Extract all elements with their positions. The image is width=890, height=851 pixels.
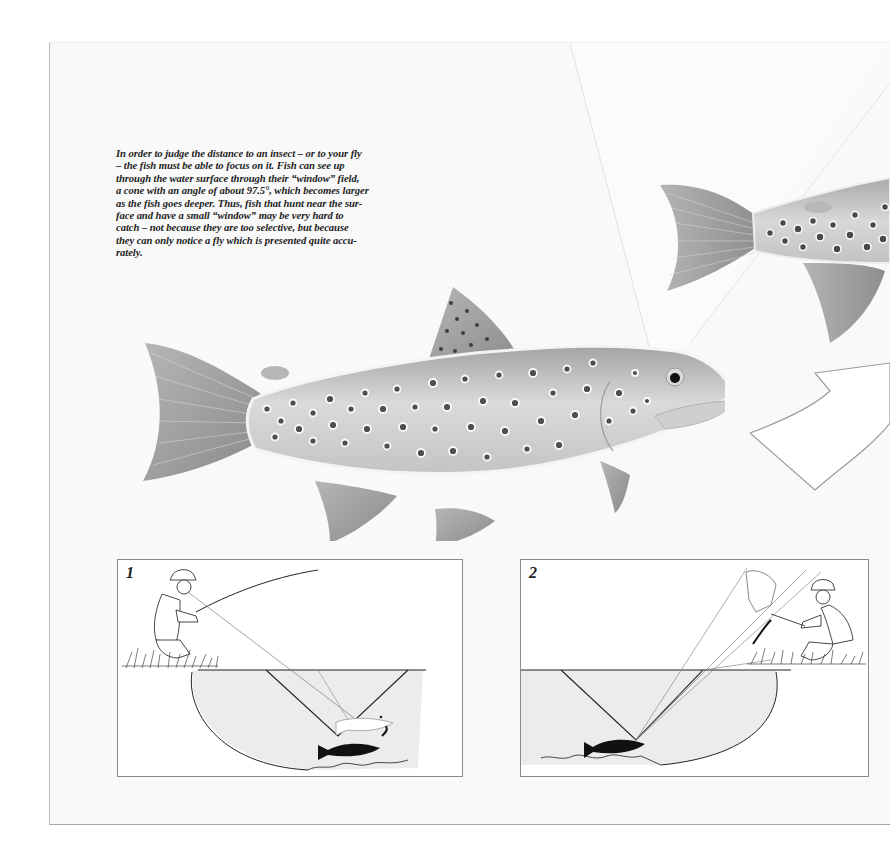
pelvic-fin (435, 508, 495, 541)
caption-line: a cone with an angle of about 97.5°, whi… (116, 185, 556, 197)
adipose-fin (261, 366, 289, 380)
caption-line: as the fish goes deeper. Thus, fish that… (116, 198, 556, 210)
anal-fin (315, 481, 397, 541)
fishing-rod (196, 570, 318, 612)
pectoral-fin (600, 461, 630, 513)
caption-line: rately. (116, 247, 556, 259)
angler-figure (154, 570, 198, 658)
adipose-fin (804, 201, 832, 213)
tail-fin (660, 185, 759, 291)
panel-1-diagram (118, 560, 462, 776)
diagram-panel-1: 1 (117, 559, 463, 777)
panel-2-diagram (521, 560, 868, 776)
anal-fin (803, 263, 885, 343)
main-trout-illustration (135, 281, 725, 541)
diagram-panel-2: 2 (520, 559, 869, 777)
caption-text: In order to judge the distance to an ins… (116, 148, 556, 260)
caption-line: In order to judge the distance to an ins… (116, 148, 556, 160)
water-area (521, 670, 777, 765)
fly (380, 716, 383, 719)
water-area (192, 670, 423, 770)
caption-line: face and have a small “window” may be ve… (116, 210, 556, 222)
tail-fin (143, 343, 260, 481)
refraction-arrow (753, 620, 771, 644)
angler-figure (771, 580, 853, 661)
caption-line: they can only notice a fly which is pres… (116, 235, 556, 247)
caption-line: through the water surface through their … (116, 173, 556, 185)
caption-line: – the fish must be able to focus on it. … (116, 160, 556, 172)
large-arrow-illustration (750, 343, 890, 503)
refracted-angler (746, 571, 776, 612)
book-page: In order to judge the distance to an ins… (49, 42, 890, 825)
caption-line: catch – not because they are too selecti… (116, 222, 556, 234)
